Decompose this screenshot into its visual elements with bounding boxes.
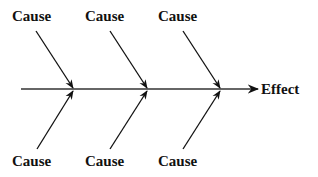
cause-arrow-top-1 [36,31,73,88]
cause-arrow-top-2 [110,31,147,88]
cause-label-top-2: Cause [85,8,125,24]
fishbone-diagram: Cause Cause Cause Cause Cause Cause Effe… [0,0,318,177]
cause-arrow-bottom-1 [37,91,73,149]
cause-arrow-bottom-3 [183,91,220,149]
cause-arrow-bottom-2 [110,91,147,149]
cause-label-bottom-3: Cause [158,153,198,169]
cause-label-bottom-2: Cause [85,153,125,169]
cause-label-top-3: Cause [158,8,198,24]
effect-label: Effect [261,81,299,97]
cause-label-top-1: Cause [12,8,52,24]
cause-label-bottom-1: Cause [12,153,52,169]
cause-arrow-top-3 [183,31,220,88]
